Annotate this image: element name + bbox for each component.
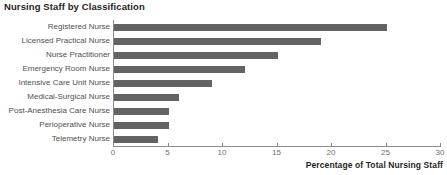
category-label-perioperative-nurse: Perioperative Nurse xyxy=(0,119,110,130)
x-axis-tick-label: 10 xyxy=(202,148,242,158)
bar-row: Post-Anesthesia Care Nurse xyxy=(113,104,440,118)
x-axis-tick-mark xyxy=(440,143,441,146)
bar-licensed-practical-nurse[interactable] xyxy=(114,38,321,45)
category-label-licensed-practical-nurse: Licensed Practical Nurse xyxy=(0,35,110,46)
chart-title: Nursing Staff by Classification xyxy=(4,1,145,12)
bar-telemetry-nurse[interactable] xyxy=(114,136,158,143)
category-label-intensive-care-unit-nurse: Intensive Care Unit Nurse xyxy=(0,77,110,88)
x-axis-tick-label: 20 xyxy=(311,148,351,158)
plot-area: Registered Nurse Licensed Practical Nurs… xyxy=(113,20,440,146)
x-axis-tick-mark xyxy=(386,143,387,146)
bar-nurse-practitioner[interactable] xyxy=(114,52,278,59)
category-label-telemetry-nurse: Telemetry Nurse xyxy=(0,133,110,144)
bar-registered-nurse[interactable] xyxy=(114,24,387,31)
category-label-nurse-practitioner: Nurse Practitioner xyxy=(0,49,110,60)
bar-row: Emergency Room Nurse xyxy=(113,62,440,76)
x-axis-tick-mark xyxy=(222,143,223,146)
x-axis-tick-mark xyxy=(113,143,114,146)
x-axis-tick-mark xyxy=(331,143,332,146)
bar-row: Licensed Practical Nurse xyxy=(113,34,440,48)
bar-post-anesthesia-care-nurse[interactable] xyxy=(114,108,169,115)
x-axis-title: Percentage of Total Nursing Staff xyxy=(306,160,443,170)
bar-row: Perioperative Nurse xyxy=(113,118,440,132)
x-axis-tick-labels: 051015202530 xyxy=(113,146,440,160)
bar-chart-figure: Nursing Staff by Classification Register… xyxy=(0,0,447,175)
bar-intensive-care-unit-nurse[interactable] xyxy=(114,80,212,87)
bar-emergency-room-nurse[interactable] xyxy=(114,66,245,73)
x-axis-tick-label: 25 xyxy=(366,148,406,158)
x-axis-tick-mark xyxy=(277,143,278,146)
x-axis-tick-label: 15 xyxy=(257,148,297,158)
bar-row: Registered Nurse xyxy=(113,20,440,34)
x-axis-tick-label: 0 xyxy=(93,148,133,158)
bar-perioperative-nurse[interactable] xyxy=(114,122,169,129)
bar-row: Medical-Surgical Nurse xyxy=(113,90,440,104)
bar-row: Nurse Practitioner xyxy=(113,48,440,62)
bar-row: Intensive Care Unit Nurse xyxy=(113,76,440,90)
x-axis-tick-mark xyxy=(168,143,169,146)
category-label-emergency-room-nurse: Emergency Room Nurse xyxy=(0,63,110,74)
category-label-post-anesthesia-care-nurse: Post-Anesthesia Care Nurse xyxy=(0,105,110,116)
bar-medical-surgical-nurse[interactable] xyxy=(114,94,179,101)
x-axis-tick-label: 30 xyxy=(420,148,447,158)
category-label-medical-surgical-nurse: Medical-Surgical Nurse xyxy=(0,91,110,102)
category-label-registered-nurse: Registered Nurse xyxy=(0,21,110,32)
x-axis-tick-label: 5 xyxy=(148,148,188,158)
